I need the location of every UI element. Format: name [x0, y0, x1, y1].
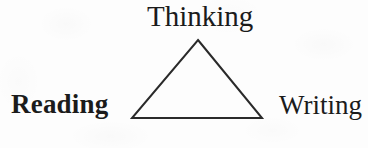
- triangle-outline: [132, 40, 262, 118]
- node-label-thinking: Thinking: [147, 2, 253, 31]
- triangle-diagram: Thinking Reading Writing: [0, 0, 368, 148]
- node-label-writing: Writing: [279, 92, 362, 119]
- node-label-reading: Reading: [11, 91, 108, 118]
